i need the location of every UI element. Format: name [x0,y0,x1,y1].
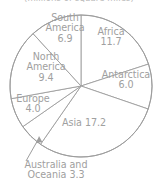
pie-chart-figure: (millions of square miles) South America… [0,0,158,187]
slice-label-north-america: North America 9.4 [20,52,72,83]
slice-label-asia: Asia 17.2 [62,118,122,128]
slice-label-antarctica: Antarctica 6.0 [98,70,154,91]
callout-label-australia-oceania: Australia and Oceania 3.3 [4,160,108,181]
slice-label-africa: Africa 11.7 [88,27,134,48]
slice-label-south-america: South America 6.9 [39,13,91,44]
slice-label-europe: Europe 4.0 [11,94,55,115]
